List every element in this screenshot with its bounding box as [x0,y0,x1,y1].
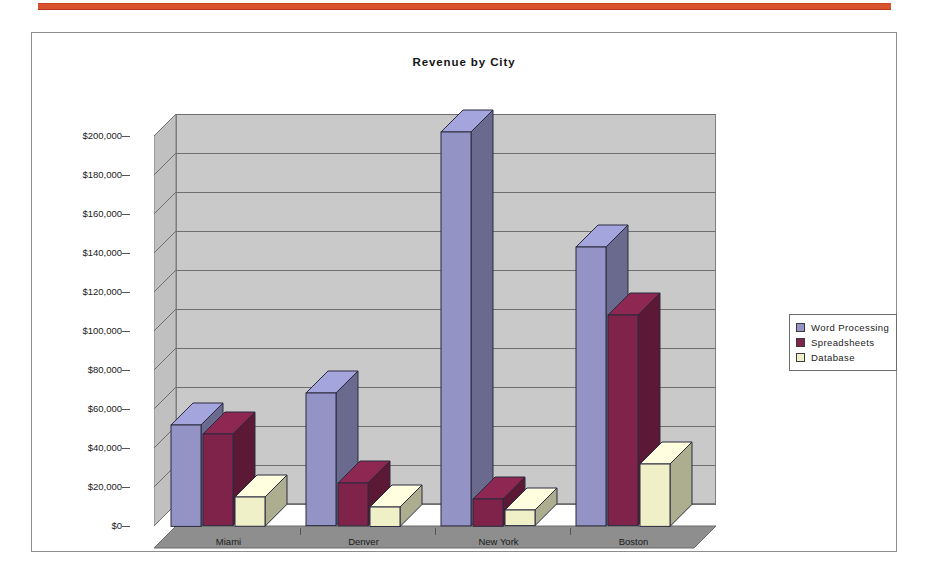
x-axis: MiamiDenverNew YorkBoston [154,536,717,556]
legend-item-spreadsheets[interactable]: Spreadsheets [796,335,889,350]
y-axis-tick [122,253,130,254]
chart-title: Revenue by City [32,56,896,68]
y-axis-tick [122,214,130,215]
y-axis-tick-label: $160,000 [42,208,122,219]
gridline-connector [154,309,177,332]
legend-swatch-icon [796,323,805,332]
y-axis-tick-label: $20,000 [42,481,122,492]
legend-item-label: Word Processing [811,322,889,333]
y-axis-tick [122,409,130,410]
x-axis-label-miami: Miami [162,536,296,547]
y-axis-tick [122,526,130,527]
chart-legend: Word ProcessingSpreadsheetsDatabase [789,314,897,371]
x-axis-label-boston: Boston [567,536,701,547]
y-axis-tick [122,175,130,176]
bar-denver-database[interactable] [370,485,424,529]
y-axis-tick-label: $120,000 [42,286,122,297]
gridline-connector [154,114,177,137]
legend-swatch-icon [796,353,805,362]
y-axis-tick [122,370,130,371]
bar-new-york-database[interactable] [505,488,559,528]
y-axis-tick [122,331,130,332]
legend-swatch-icon [796,338,805,347]
y-axis: $0$20,000$40,000$60,000$80,000$100,000$1… [32,136,122,526]
gridline-connector [154,153,177,176]
y-axis-tick-label: $60,000 [42,403,122,414]
y-axis-tick-label: $200,000 [42,130,122,141]
legend-item-label: Spreadsheets [811,337,874,348]
legend-item-word-processing[interactable]: Word Processing [796,320,889,335]
y-axis-tick [122,292,130,293]
bar-boston-database[interactable] [640,442,694,528]
y-axis-tick-label: $40,000 [42,442,122,453]
x-axis-tick [300,528,301,535]
bar-miami-database[interactable] [235,475,289,528]
x-axis-tick [435,528,436,535]
x-axis-label-denver: Denver [297,536,431,547]
y-axis-tick [122,448,130,449]
y-axis-tick-label: $80,000 [42,364,122,375]
y-axis-tick-label: $180,000 [42,169,122,180]
legend-item-database[interactable]: Database [796,350,889,365]
x-axis-tick [570,528,571,535]
gridline-connector [154,270,177,293]
y-axis-tick-label: $100,000 [42,325,122,336]
legend-item-label: Database [811,352,855,363]
y-axis-tick [122,487,130,488]
y-axis-tick [122,136,130,137]
y-axis-tick-label: $0 [42,520,122,531]
gridline-connector [154,192,177,215]
x-axis-label-new-york: New York [432,536,566,547]
top-orange-rule [38,3,891,10]
bar-new-york-word-processing[interactable] [441,110,495,528]
gridline-connector [154,348,177,371]
plot-area [154,136,694,526]
gridline-connector [154,231,177,254]
chart-frame: Revenue by City $0$20,000$40,000$60,000$… [31,32,897,552]
y-axis-tick-label: $140,000 [42,247,122,258]
